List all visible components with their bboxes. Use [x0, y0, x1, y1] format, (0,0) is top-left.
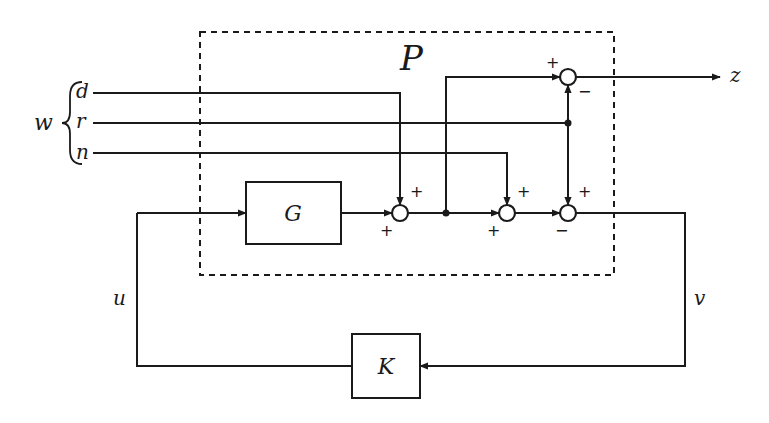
- sum-junction-4: [560, 69, 576, 85]
- sign-s1-top: +: [410, 182, 423, 201]
- sign-s1-bottom: +: [380, 221, 393, 240]
- sign-s4-right: −: [578, 82, 591, 101]
- signal-w-label: w: [34, 110, 53, 135]
- sign-s3-top: +: [578, 182, 591, 201]
- branch-dot-r: [565, 120, 572, 127]
- wire-branch-to-s4: [446, 77, 560, 213]
- sum-junction-1: [392, 205, 408, 221]
- plant-label: P: [399, 38, 424, 78]
- signal-r-label: r: [76, 109, 87, 133]
- sum-junction-2: [499, 205, 515, 221]
- block-K-label: K: [377, 354, 396, 379]
- sign-s2-top: +: [517, 182, 530, 201]
- sign-s3-bottom: −: [555, 221, 568, 240]
- wire-v: [420, 213, 685, 366]
- signal-d-label: d: [76, 79, 89, 103]
- block-G-label: G: [284, 201, 302, 226]
- signal-z-label: z: [729, 63, 741, 87]
- signal-n-label: n: [76, 140, 89, 164]
- sign-s2-bottom: +: [487, 221, 500, 240]
- sign-s4-top: +: [546, 53, 559, 72]
- signal-u-label: u: [113, 286, 126, 310]
- signal-v-label: v: [694, 286, 706, 310]
- sum-junction-3: [560, 205, 576, 221]
- block-diagram: P w d r n G + + + + + − + − z v K: [0, 0, 769, 423]
